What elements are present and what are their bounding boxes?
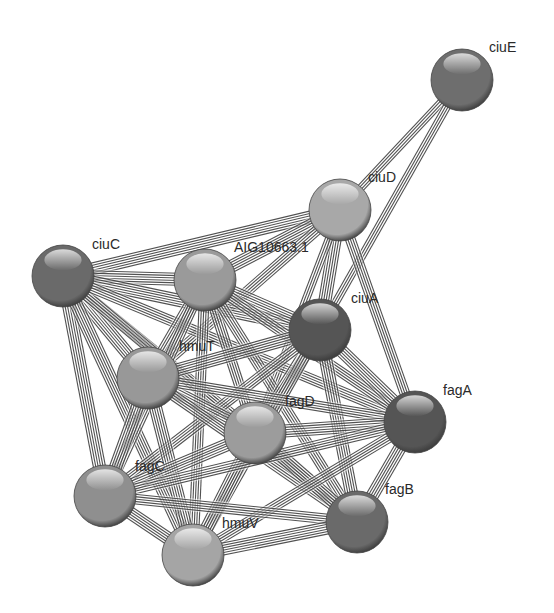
node-highlight <box>129 351 166 372</box>
node-highlight <box>236 406 273 427</box>
node-highlight <box>443 53 480 74</box>
node-label: fagA <box>443 382 472 398</box>
node-highlight <box>44 249 81 270</box>
node-highlight <box>338 495 375 516</box>
node-fagd[interactable] <box>224 402 286 464</box>
node-label: hmuT <box>179 338 215 354</box>
node-ciud[interactable] <box>309 179 371 241</box>
node-hmut[interactable] <box>117 347 179 409</box>
node-ciuc[interactable] <box>32 245 94 307</box>
node-highlight <box>396 395 433 416</box>
node-highlight <box>186 253 223 274</box>
node-label: ciuD <box>368 169 396 185</box>
node-aig10663-1[interactable] <box>174 249 236 311</box>
node-label: fagD <box>285 393 315 409</box>
node-label: ciuC <box>92 236 120 252</box>
node-faga[interactable] <box>384 391 446 453</box>
node-hmuv[interactable] <box>162 524 224 586</box>
node-label: fagB <box>385 481 414 497</box>
node-highlight <box>301 303 338 324</box>
node-highlight <box>321 183 358 204</box>
node-highlight <box>174 528 211 549</box>
node-label: hmuV <box>222 515 259 531</box>
node-label: fagC <box>135 458 165 474</box>
node-ciue[interactable] <box>431 49 493 111</box>
node-ciua[interactable] <box>289 299 351 361</box>
node-label: ciuE <box>489 39 516 55</box>
node-fagb[interactable] <box>326 491 388 553</box>
node-highlight <box>86 469 123 490</box>
node-label: ciuA <box>351 290 379 306</box>
node-label: AIG10663.1 <box>234 239 309 255</box>
interaction-network: ciuEciuDciuCAIG10663.1ciuAhmuTfagDfagAfa… <box>0 0 554 613</box>
node-fagc[interactable] <box>74 465 136 527</box>
